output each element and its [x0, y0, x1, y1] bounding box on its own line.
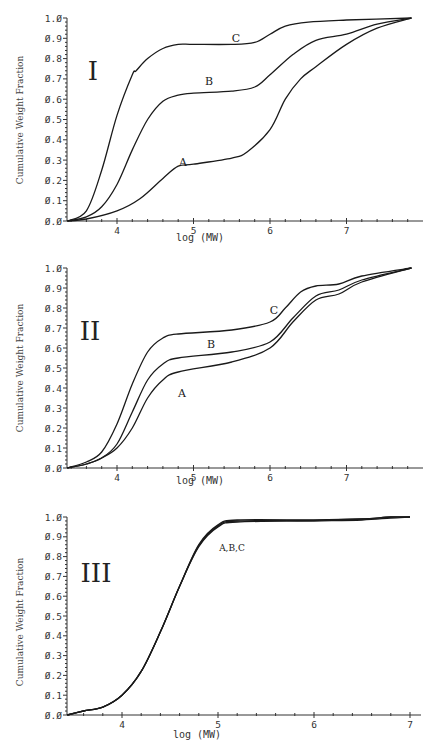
y-tick-label: Ø.6: [45, 94, 62, 105]
y-tick-label: Ø.3: [45, 403, 62, 414]
x-axis-title: log (MW): [176, 232, 224, 243]
panel-label: I: [88, 56, 98, 86]
x-axis-title: log (MW): [173, 729, 221, 740]
panel-label: II: [80, 316, 101, 346]
curve-c: [67, 268, 411, 468]
x-tick-label: 7: [344, 225, 350, 236]
y-tick-label: Ø.5: [45, 363, 62, 374]
curve-label-a: A: [177, 387, 187, 400]
y-axis-title: Cumulative Weight Fraction: [15, 558, 25, 687]
curve-c: [67, 18, 411, 221]
y-tick-label: Ø.1: [45, 195, 62, 206]
chart-panel-3: Cumulative Weight Fraction III log (MW) …: [0, 495, 430, 747]
x-tick-label: 4: [114, 225, 120, 236]
y-tick-label: Ø.7: [45, 571, 62, 582]
curve-label-b: B: [205, 75, 213, 88]
curve-label-abc: A,B,C: [218, 543, 245, 553]
y-tick-label: Ø.8: [45, 551, 62, 562]
y-tick-label: Ø.4: [45, 630, 62, 641]
y-tick-label: Ø.Ø: [45, 710, 62, 721]
chart-plot-3: Cumulative Weight Fraction III log (MW) …: [0, 495, 430, 747]
chart-panel-1: Cumulative Weight Fraction I log (MW) A …: [0, 0, 430, 245]
y-tick-label: Ø.8: [45, 303, 62, 314]
curve-b: [67, 18, 411, 221]
y-tick-label: 1.Ø: [45, 263, 62, 274]
x-tick-label: 7: [407, 719, 413, 730]
curve-label-c: C: [270, 304, 278, 317]
y-tick-label: Ø.Ø: [45, 216, 62, 227]
y-tick-label: Ø.7: [45, 73, 62, 84]
y-tick-label: Ø.8: [45, 53, 62, 64]
chart-plot-1: Cumulative Weight Fraction I log (MW) A …: [0, 0, 430, 245]
curves: [67, 18, 411, 221]
panel-label: III: [81, 558, 112, 588]
y-tick-label: Ø.9: [45, 283, 62, 294]
y-tick-label: Ø.3: [45, 155, 62, 166]
y-tick-label: Ø.6: [45, 591, 62, 602]
curve-label-a: A: [178, 156, 188, 169]
y-tick-label: Ø.1: [45, 690, 62, 701]
y-axis-title: Cumulative Weight Fraction: [15, 304, 25, 433]
x-tick-label: 6: [267, 225, 273, 236]
x-tick-label: 5: [215, 719, 221, 730]
y-tick-label: Ø.2: [45, 423, 62, 434]
x-tick-label: 6: [311, 719, 317, 730]
curve-a: [67, 18, 411, 221]
y-tick-label: Ø.9: [45, 531, 62, 542]
curves: [67, 268, 411, 468]
y-tick-label: Ø.9: [45, 33, 62, 44]
y-tick-label: Ø.4: [45, 383, 62, 394]
chart-plot-2: Cumulative Weight Fraction II log (MW) A…: [0, 245, 430, 495]
y-tick-label: Ø.2: [45, 670, 62, 681]
y-tick-label: Ø.7: [45, 323, 62, 334]
axes: Ø.ØØ.1Ø.2Ø.3Ø.4Ø.5Ø.6Ø.7Ø.8Ø.91.Ø4567: [45, 13, 423, 237]
x-tick-label: 4: [119, 719, 125, 730]
chart-panel-2: Cumulative Weight Fraction II log (MW) A…: [0, 245, 430, 495]
y-tick-label: Ø.2: [45, 175, 62, 186]
y-tick-label: Ø.5: [45, 611, 62, 622]
y-tick-label: Ø.3: [45, 650, 62, 661]
y-tick-label: Ø.4: [45, 134, 62, 145]
y-tick-label: 1.Ø: [45, 512, 62, 523]
curve-label-b: B: [207, 338, 215, 351]
curve-a: [67, 268, 411, 468]
x-tick-label: 4: [114, 472, 120, 483]
x-tick-label: 7: [344, 472, 350, 483]
y-tick-label: Ø.1: [45, 443, 62, 454]
x-tick-label: 5: [191, 225, 197, 236]
y-tick-label: 1.Ø: [45, 13, 62, 24]
x-axis-title: log (MW): [176, 475, 224, 486]
y-tick-label: Ø.6: [45, 343, 62, 354]
x-tick-label: 6: [267, 472, 273, 483]
axes: Ø.ØØ.1Ø.2Ø.3Ø.4Ø.5Ø.6Ø.7Ø.8Ø.91.Ø4567: [45, 263, 423, 484]
x-tick-label: 5: [191, 472, 197, 483]
y-axis-title: Cumulative Weight Fraction: [15, 56, 25, 185]
curve-label-c: C: [232, 32, 240, 45]
y-tick-label: Ø.Ø: [45, 463, 62, 474]
curve-b: [67, 268, 411, 468]
y-tick-label: Ø.5: [45, 114, 62, 125]
